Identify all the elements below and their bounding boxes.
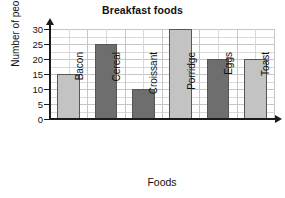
y-axis-tick-label: 5 <box>3 100 43 109</box>
gridline-vertical <box>274 29 275 119</box>
y-axis-tick-label: 0 <box>3 115 43 124</box>
y-axis-tick <box>44 59 50 60</box>
x-axis-arrow-icon <box>275 115 282 123</box>
y-axis-title: Number of people <box>9 0 23 77</box>
y-axis-tick-label: 15 <box>3 70 43 79</box>
y-axis-tick <box>44 104 50 105</box>
x-tick-label-croissant: Croissant <box>148 52 160 122</box>
y-axis-tick <box>44 119 50 120</box>
x-tick-label-porridge: Porridge <box>186 52 198 122</box>
x-tick-label-bacon: Bacon <box>74 52 86 122</box>
y-axis-tick <box>44 74 50 75</box>
x-tick-label-toast: Toast <box>260 52 272 122</box>
y-axis-tick-label: 20 <box>3 55 43 64</box>
chart-title: Breakfast foods <box>0 4 285 16</box>
y-axis-arrow-icon <box>46 18 54 25</box>
y-axis-tick-label: 10 <box>3 85 43 94</box>
y-axis-tick <box>44 29 50 30</box>
y-axis-tick <box>44 89 50 90</box>
y-axis-tick-label: 25 <box>3 40 43 49</box>
y-axis-tick <box>44 44 50 45</box>
bar-chart: Breakfast foods Number of people 0510152… <box>0 0 285 198</box>
x-axis-title: Foods <box>50 176 274 188</box>
y-axis-tick-label: 30 <box>3 25 43 34</box>
x-tick-label-cereal: Cereal <box>111 52 123 122</box>
y-axis-line <box>49 24 51 120</box>
x-tick-label-eggs: Eggs <box>223 52 235 122</box>
